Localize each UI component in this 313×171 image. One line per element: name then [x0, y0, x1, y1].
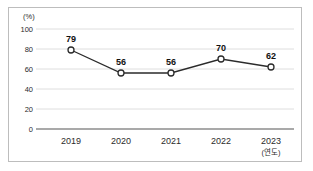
data-point-2023[interactable]	[268, 64, 274, 70]
data-point-2019[interactable]	[68, 47, 74, 53]
x-axis-unit-label: (연도)	[262, 148, 281, 157]
chart-container: (%) 100 80 60 40 20 0 79 56 56 70 62	[8, 7, 302, 162]
data-label-2022: 70	[216, 43, 226, 53]
x-tick-label-2022: 2022	[211, 136, 231, 146]
data-point-2021[interactable]	[168, 70, 174, 76]
x-tick-label-2021: 2021	[161, 136, 181, 146]
data-point-2020[interactable]	[118, 70, 124, 76]
x-tick-label-2023: 2023	[261, 136, 281, 146]
y-axis-unit-label: (%)	[23, 12, 35, 21]
y-tick-label-80: 80	[25, 45, 33, 54]
y-tick-label-20: 20	[25, 105, 33, 114]
data-label-2021: 56	[166, 57, 176, 67]
y-tick-labels: 100 80 60 40 20 0	[20, 25, 33, 134]
x-tick-label-2019: 2019	[61, 136, 81, 146]
data-label-2023: 62	[266, 51, 276, 61]
x-tick-label-2020: 2020	[111, 136, 131, 146]
data-point-2022[interactable]	[218, 56, 224, 62]
y-tick-label-100: 100	[20, 25, 33, 34]
line-chart-plot: (%) 100 80 60 40 20 0 79 56 56 70 62	[9, 8, 301, 161]
data-label-2020: 56	[116, 57, 126, 67]
y-tick-label-40: 40	[25, 85, 33, 94]
y-tick-label-60: 60	[25, 65, 33, 74]
y-tick-label-0: 0	[29, 125, 33, 134]
data-label-2019: 79	[66, 34, 76, 44]
x-tick-labels: 2019 2020 2021 2022 2023	[61, 136, 281, 146]
